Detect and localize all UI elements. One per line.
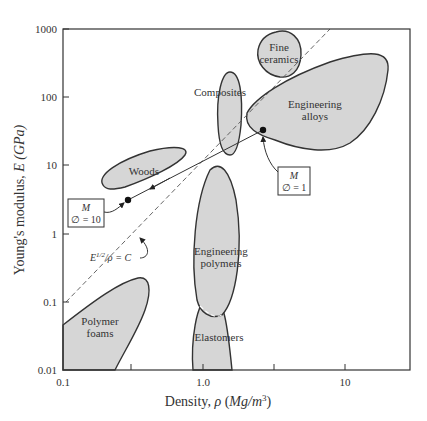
annotation-m10: M ∅ = 10 [68,199,124,227]
svg-text:0.1: 0.1 [56,376,70,388]
label-ceramics: ceramics [259,53,298,65]
annotation-m10-top: M [81,202,91,213]
label-composites: Composites [194,86,246,98]
svg-text:100: 100 [41,91,58,103]
region-engineering-polymers [194,166,239,316]
point-m10 [125,197,131,203]
annotation-m1-bottom: ∅ = 1 [282,182,307,193]
svg-text:0.01: 0.01 [38,364,57,376]
svg-text:1: 1 [52,228,58,240]
label-alloys: alloys [302,110,328,122]
svg-text:10: 10 [46,159,58,171]
y-axis: 1000 100 10 1 0.1 0.01 [35,23,69,376]
label-polymers: polymers [201,257,242,269]
x-axis-label: Density, ρ (Mg/m3) [165,393,272,410]
label-engineering-1: Engineering [288,98,342,110]
guide-line-label: E1/2/ρ = C [89,238,148,263]
label-foams: foams [87,327,114,339]
materials-selection-chart: M ∅ = 10 M ∅ = 1 E1/2/ρ = C Fine ceramic… [0,0,427,421]
label-fine: Fine [269,41,289,53]
label-woods: Woods [129,165,159,177]
label-engineering-2: Engineering [194,245,248,257]
svg-text:10: 10 [340,376,352,388]
label-polymer: Polymer [81,315,119,327]
svg-text:1.0: 1.0 [196,376,210,388]
svg-text:1000: 1000 [35,23,58,35]
annotation-m10-bottom: ∅ = 10 [71,214,101,225]
point-m1 [260,127,266,133]
annotation-m1-top: M [289,170,299,181]
svg-text:0.1: 0.1 [43,296,57,308]
label-elastomers: Elastomers [195,331,244,343]
svg-text:E1/2/ρ = C: E1/2/ρ = C [89,251,131,263]
arrow-to-m10 [150,178,170,189]
y-axis-label: Young's modulus, E (GPa) [12,124,28,275]
